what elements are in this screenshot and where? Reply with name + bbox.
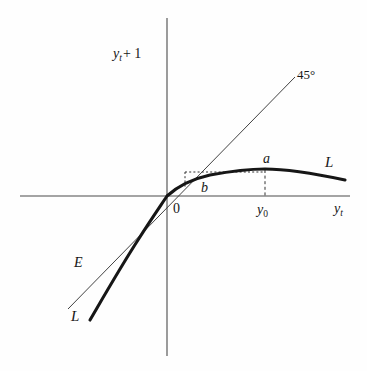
x-tick-label-y0: y0 xyxy=(257,203,268,219)
point-label-b: b xyxy=(201,181,208,195)
curve-label-L-right: L xyxy=(325,155,333,170)
origin-label: 0 xyxy=(173,202,180,216)
x-axis-label: yt xyxy=(334,202,343,218)
phase-diagram-plot xyxy=(0,0,367,371)
point-label-a: a xyxy=(263,152,270,166)
curve-L xyxy=(90,169,345,320)
x-axis-label-subscript: t xyxy=(340,208,343,218)
curve-label-L-lower: L xyxy=(71,309,79,324)
y0-subscript: 0 xyxy=(263,209,268,219)
point-label-E: E xyxy=(74,256,83,270)
y-axis-label: yt+ 1 xyxy=(113,47,142,63)
forty-five-degree-label: 45° xyxy=(297,68,315,81)
figure-canvas: yt+ 1 yt 0 y0 a b E L L 45° xyxy=(0,0,367,371)
forty-five-degree-line xyxy=(68,77,295,309)
y-axis-label-plus: + 1 xyxy=(122,46,142,61)
